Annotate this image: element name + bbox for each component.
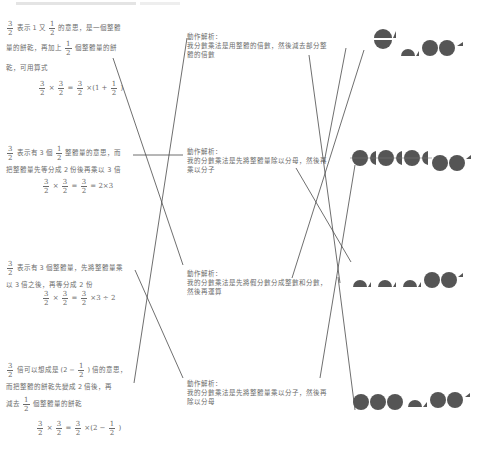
pattern-4 (353, 392, 470, 410)
pattern-2 (350, 150, 471, 171)
pattern-3 (353, 272, 463, 288)
right-patterns (0, 0, 489, 453)
pattern-1 (374, 29, 463, 56)
